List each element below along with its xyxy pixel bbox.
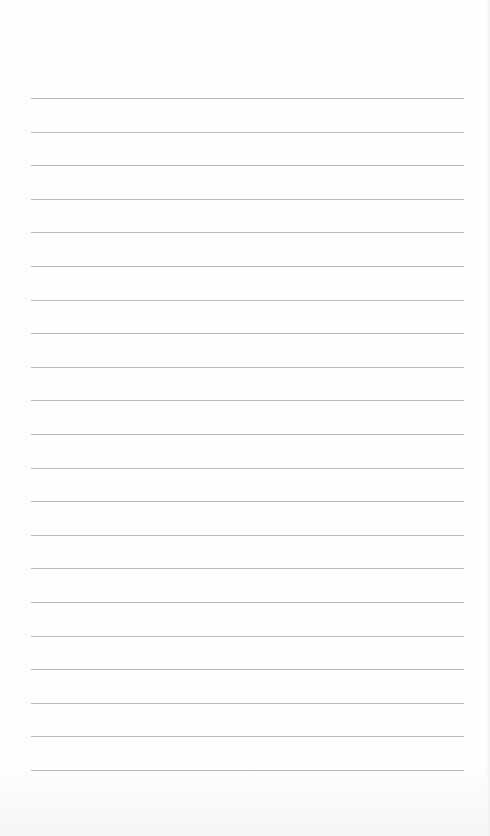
ruled-line (31, 468, 464, 469)
ruled-line (31, 602, 464, 603)
ruled-line (31, 266, 464, 267)
ruled-line (31, 199, 464, 200)
ruled-line (31, 434, 464, 435)
ruled-line (31, 333, 464, 334)
ruled-line (31, 300, 464, 301)
paper-bottom-shade (0, 766, 490, 836)
ruled-line (31, 568, 464, 569)
ruled-line (31, 367, 464, 368)
ruled-line (31, 98, 464, 99)
ruled-line (31, 636, 464, 637)
ruled-line (31, 703, 464, 704)
ruled-line (31, 736, 464, 737)
ruled-line (31, 232, 464, 233)
lined-paper-sheet (0, 0, 490, 836)
ruled-line (31, 501, 464, 502)
ruled-line (31, 400, 464, 401)
ruled-line (31, 165, 464, 166)
paper-edge-shadow (486, 0, 490, 836)
ruled-line (31, 669, 464, 670)
ruled-line (31, 132, 464, 133)
ruled-line (31, 535, 464, 536)
